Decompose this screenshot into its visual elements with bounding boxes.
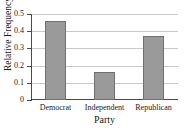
x-tick-label: Republican	[114, 103, 186, 112]
y-tick-label: 0.3	[0, 44, 24, 52]
chart-title: Political Affiliation	[0, 0, 185, 1]
y-tick-mark	[27, 100, 32, 101]
y-tick-label: 0.2	[0, 62, 24, 70]
y-tick-label: 0.5	[0, 10, 24, 18]
y-tick-mark	[27, 66, 32, 67]
y-tick-mark	[27, 14, 32, 15]
bar	[45, 21, 66, 100]
y-tick-mark	[27, 48, 32, 49]
x-axis-label: Party	[31, 114, 178, 125]
y-tick-mark	[27, 83, 32, 84]
bar	[143, 36, 164, 100]
y-tick-mark	[27, 31, 32, 32]
bar-chart-figure: Political Affiliation Relative Frequency…	[0, 0, 185, 130]
gridline	[31, 14, 178, 15]
bar	[94, 72, 115, 100]
y-tick-label: 0.1	[0, 79, 24, 87]
y-tick-label: 0.4	[0, 27, 24, 35]
plot-area	[31, 14, 178, 100]
